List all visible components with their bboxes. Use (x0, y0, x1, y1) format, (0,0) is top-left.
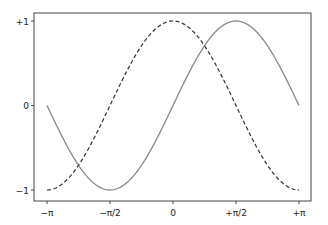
x-tick-label: 0 (170, 208, 176, 218)
x-tick-label: +π (293, 208, 307, 218)
x-tick-label: −π/2 (99, 208, 121, 218)
x-tick-label: +π/2 (225, 208, 247, 218)
line-chart: −π−π/20+π/2+π +10−1 (0, 0, 328, 225)
series-sin-line (47, 21, 299, 190)
y-tick-label: 0 (23, 101, 29, 111)
x-tick-label: −π (41, 208, 55, 218)
y-tick-label: +1 (16, 17, 29, 27)
y-axis-ticks: +10−1 (16, 17, 34, 196)
plot-area (47, 21, 299, 190)
y-tick-label: −1 (16, 186, 29, 196)
x-axis-ticks: −π−π/20+π/2+π (41, 201, 307, 218)
